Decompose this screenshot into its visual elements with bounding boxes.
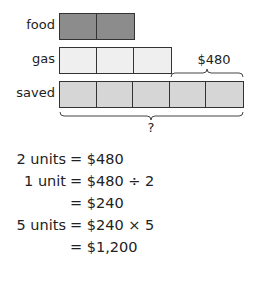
row-label-saved: saved [3,85,55,100]
saved-unit [206,82,243,107]
saved-unit [97,82,134,107]
saved-unit [133,82,170,107]
top-brace-label: $480 [186,52,242,67]
top-brace [170,68,244,78]
food-unit [97,14,134,39]
row-label-gas: gas [3,51,55,66]
step-lhs: 2 units [0,148,66,170]
saved-unit [170,82,207,107]
saved-bar [59,81,244,108]
step-rhs: = $480 [70,148,124,170]
step-lhs: 1 unit [0,170,66,192]
gas-unit [134,48,171,73]
gas-unit [97,48,134,73]
step-rhs: = $480 ÷ 2 [70,170,154,192]
row-label-food: food [3,17,55,32]
step-rhs: = $240 [70,192,124,214]
gas-unit [60,48,97,73]
food-unit [60,14,97,39]
bottom-brace-label: ? [141,120,161,135]
step-rhs: = $1,200 [70,236,138,258]
step-lhs: 5 units [0,214,66,236]
gas-bar [59,47,172,74]
step-rhs: = $240 × 5 [70,214,154,236]
food-bar [59,13,135,40]
saved-unit [60,82,97,107]
